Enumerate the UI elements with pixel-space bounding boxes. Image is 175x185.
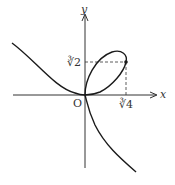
x-tick-label: ∛4 (119, 97, 133, 111)
y-axis-label: y (80, 3, 88, 16)
curve-loop (85, 51, 126, 95)
y-tick-label: ∛2 (67, 55, 81, 69)
curve-left-branch (12, 43, 85, 95)
origin-label: O (73, 97, 82, 110)
curve-diagram: y x O ∛2 ∛4 (0, 0, 175, 185)
x-axis-label: x (160, 88, 167, 101)
marked-point (124, 60, 128, 64)
